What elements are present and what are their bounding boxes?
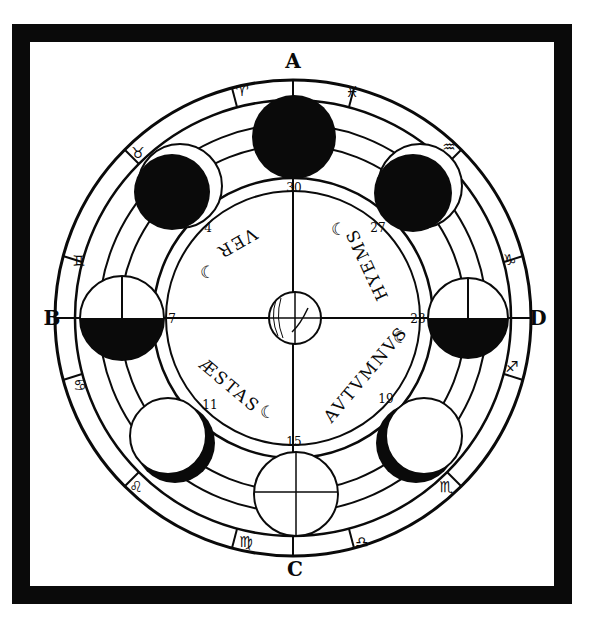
day-27: 27: [370, 221, 385, 235]
moon-upper-right: [374, 144, 462, 232]
moon-left-half: [80, 276, 164, 360]
virgo-icon: ♍: [239, 533, 252, 551]
label-C: C: [287, 557, 303, 581]
moon-full-bottom: [254, 452, 338, 536]
earth-globe: [269, 292, 321, 344]
moon-new-top: [252, 95, 336, 179]
gemini-icon: ♊: [72, 252, 85, 270]
pisces-icon: ♓: [345, 83, 358, 101]
crescent-icon: ☾: [393, 327, 410, 347]
crescent-icon: ☾: [200, 262, 217, 282]
lunar-phase-diagram: A B C D ♈ ♓ ♒ ♑ ♐ ♏ ♎ ♍ ♌ ♋ ♊ ♉ 30 4 27 …: [0, 0, 601, 626]
capricorn-icon: ♑: [503, 251, 516, 269]
day-30: 30: [286, 181, 301, 195]
diagram-canvas: A B C D ♈ ♓ ♒ ♑ ♐ ♏ ♎ ♍ ♌ ♋ ♊ ♉ 30 4 27 …: [0, 0, 601, 626]
aquarius-icon: ♒: [442, 138, 455, 156]
crescent-icon: ☾: [260, 402, 277, 422]
label-A: A: [284, 49, 301, 73]
moon-right-half: [428, 278, 508, 358]
day-4: 4: [204, 221, 212, 235]
aries-icon: ♈: [235, 82, 248, 100]
day-15: 15: [286, 435, 301, 449]
scorpio-icon: ♏: [439, 478, 453, 496]
label-B: B: [44, 306, 61, 330]
day-7: 7: [168, 312, 176, 326]
taurus-icon: ♉: [131, 144, 144, 162]
day-19: 19: [378, 392, 393, 406]
season-hyems: HYEMS: [341, 225, 392, 304]
libra-icon: ♎: [355, 533, 368, 551]
day-11: 11: [202, 398, 217, 412]
sagittarius-icon: ♐: [505, 358, 518, 376]
label-D: D: [529, 306, 546, 330]
leo-icon: ♌: [129, 478, 142, 496]
crescent-icon: ☾: [331, 219, 348, 239]
cancer-icon: ♋: [73, 376, 86, 394]
day-23: 23: [410, 312, 425, 326]
season-ver: VER: [213, 223, 262, 263]
